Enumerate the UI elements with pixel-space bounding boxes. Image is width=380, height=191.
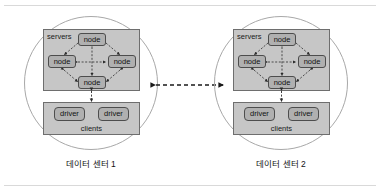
clients-group-label: clients — [44, 125, 139, 133]
servers-group-label: servers — [47, 33, 72, 41]
client-driver-2[interactable]: driver — [98, 107, 129, 121]
servers-group-1: servers node node node node — [43, 29, 140, 91]
clients-group-1: driver driver clients — [43, 102, 140, 135]
server-node-left[interactable]: node — [48, 55, 76, 68]
datacenter-caption-2: 데이터 센터 2 — [206, 157, 356, 169]
datacenter-caption-1: 데이터 센터 1 — [16, 157, 166, 169]
clients-group-label: clients — [234, 125, 329, 133]
server-node-left[interactable]: node — [238, 55, 266, 68]
server-node-top[interactable]: node — [268, 33, 296, 46]
server-node-top[interactable]: node — [78, 33, 106, 46]
datacenter-panel-2: servers node node node node driver drive… — [206, 14, 356, 180]
client-driver-1[interactable]: driver — [54, 107, 85, 121]
server-node-right[interactable]: node — [298, 55, 326, 68]
datacenter-panel-1: servers node node node node driver drive… — [16, 14, 166, 180]
client-driver-2[interactable]: driver — [288, 107, 319, 121]
servers-group-label: servers — [237, 33, 262, 41]
client-driver-1[interactable]: driver — [244, 107, 275, 121]
figure-root: servers node node node node driver drive… — [0, 0, 380, 191]
frame-rule-bottom — [4, 185, 376, 186]
clients-group-2: driver driver clients — [233, 102, 330, 135]
server-node-bottom[interactable]: node — [78, 76, 106, 89]
frame-rule-top — [4, 5, 376, 6]
server-node-bottom[interactable]: node — [268, 76, 296, 89]
server-node-right[interactable]: node — [108, 55, 136, 68]
servers-group-2: servers node node node node — [233, 29, 330, 91]
